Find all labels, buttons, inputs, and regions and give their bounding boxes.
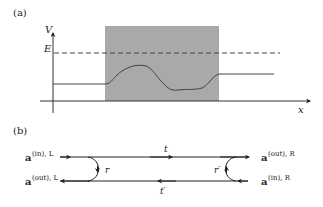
reflection-label-right: r′ [214,165,220,175]
x-axis-label: x [298,104,304,115]
svg-text:a: a [25,152,32,163]
label-a-out-right: a (out), R [261,150,295,163]
label-a-in-right: a (in), R [261,174,291,187]
svg-text:a: a [261,152,268,163]
reflection-label-left: r [105,165,110,175]
panel-b: (b) r r′ t t′ a (in), L a (out), L [13,125,295,196]
transmission-label-bottom: t′ [160,186,166,196]
label-a-out-left: a (out), L [25,174,58,187]
barrier-region [105,26,219,101]
energy-label: E [43,43,52,54]
scattering-diagram: (a) V x E (b) r r′ t [0,0,323,207]
transmission-label-top: t [164,144,168,154]
svg-text:(out), R: (out), R [268,150,295,158]
svg-text:a: a [25,176,32,187]
reflection-arc-right [226,157,237,181]
panel-a-label: (a) [13,7,27,18]
svg-text:(in), R: (in), R [268,174,291,182]
svg-text:(in), L: (in), L [32,150,54,158]
panel-b-label: (b) [13,125,27,136]
svg-text:(out), L: (out), L [32,174,58,182]
panel-a: (a) V x E [13,7,310,115]
label-a-in-left: a (in), L [25,150,54,163]
reflection-arc-left [88,157,99,181]
svg-text:a: a [261,176,268,187]
